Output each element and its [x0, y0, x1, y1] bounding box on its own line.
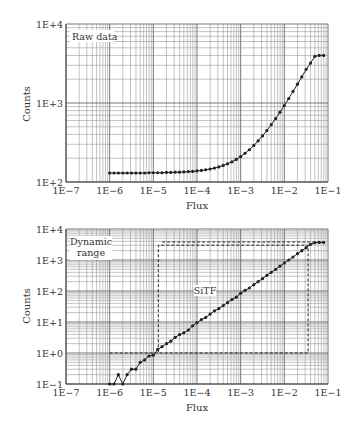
- data-line: [110, 55, 324, 173]
- data-point: [204, 168, 207, 171]
- data-point: [147, 354, 150, 357]
- data-point: [204, 316, 207, 319]
- data-point: [165, 342, 168, 345]
- x-tick-label: 1E−6: [96, 185, 123, 196]
- data-point: [296, 252, 299, 255]
- data-point: [305, 246, 308, 249]
- data-point: [287, 97, 290, 100]
- x-tick-label: 1E−2: [271, 387, 298, 398]
- data-point: [278, 265, 281, 268]
- data-point: [112, 382, 115, 385]
- data-point: [300, 75, 303, 78]
- x-tick-label: 1E−1: [315, 185, 342, 196]
- data-point: [126, 171, 129, 174]
- data-point: [169, 171, 172, 174]
- data-point: [283, 261, 286, 264]
- data-point: [248, 286, 251, 289]
- data-point: [152, 171, 155, 174]
- data-point: [156, 171, 159, 174]
- data-point: [191, 324, 194, 327]
- data-point: [130, 171, 133, 174]
- data-point: [213, 309, 216, 312]
- y-tick-label: 1E+4: [36, 19, 63, 30]
- chart-figure: 1E−71E−61E−51E−41E−31E−21E−11E+21E+31E+4…: [0, 0, 356, 435]
- data-point: [265, 129, 268, 132]
- data-point: [178, 171, 181, 174]
- data-point: [287, 258, 290, 261]
- x-tick-label: 1E−3: [227, 185, 254, 196]
- y-tick-label: 1E+1: [36, 317, 63, 328]
- data-point: [309, 61, 312, 64]
- data-point: [130, 368, 133, 371]
- data-point: [200, 169, 203, 172]
- data-point: [143, 358, 146, 361]
- data-point: [270, 271, 273, 274]
- data-point: [291, 255, 294, 258]
- data-point: [235, 296, 238, 299]
- data-point: [134, 171, 137, 174]
- x-tick-label: 1E−1: [315, 387, 342, 398]
- x-tick-label: 1E−3: [227, 387, 254, 398]
- data-point: [187, 328, 190, 331]
- x-tick-label: 1E−6: [96, 387, 123, 398]
- data-point: [239, 155, 242, 158]
- data-point: [200, 318, 203, 321]
- data-point: [230, 160, 233, 163]
- data-point: [143, 171, 146, 174]
- data-point: [257, 139, 260, 142]
- data-point: [134, 368, 137, 371]
- data-point: [278, 111, 281, 114]
- data-point: [296, 83, 299, 86]
- data-point: [261, 277, 264, 280]
- data-point: [222, 304, 225, 307]
- data-point: [195, 321, 198, 324]
- data-point: [252, 144, 255, 147]
- data-point: [265, 274, 268, 277]
- y-tick-label: 1E−1: [36, 379, 63, 390]
- y-tick-label: 1E+3: [36, 98, 63, 109]
- data-point: [235, 158, 238, 161]
- data-point: [283, 104, 286, 107]
- data-point: [209, 312, 212, 315]
- data-line: [110, 242, 324, 384]
- data-point: [300, 249, 303, 252]
- x-tick-label: 1E−4: [184, 185, 211, 196]
- data-point: [239, 292, 242, 295]
- data-point: [152, 354, 155, 357]
- data-point: [121, 171, 124, 174]
- data-point: [156, 348, 159, 351]
- y-tick-label: 1E+0: [36, 348, 63, 359]
- data-point: [252, 283, 255, 286]
- data-point: [257, 280, 260, 283]
- x-tick-label: 1E−4: [184, 387, 211, 398]
- data-point: [165, 171, 168, 174]
- data-point: [139, 171, 142, 174]
- data-point: [126, 373, 129, 376]
- data-point: [226, 162, 229, 165]
- data-point: [209, 167, 212, 170]
- data-point: [187, 170, 190, 173]
- data-point: [309, 243, 312, 246]
- data-point: [230, 298, 233, 301]
- x-tick-label: 1E−5: [140, 185, 167, 196]
- data-point: [108, 382, 111, 385]
- data-point: [261, 134, 264, 137]
- data-point: [139, 361, 142, 364]
- data-point: [318, 54, 321, 57]
- data-point: [243, 152, 246, 155]
- data-point: [274, 117, 277, 120]
- top-chart-raw-data: 1E−71E−61E−51E−41E−31E−21E−11E+21E+31E+4: [36, 19, 341, 197]
- data-point: [274, 268, 277, 271]
- bottom-chart-sitf: 1E−71E−61E−51E−41E−31E−21E−11E−11E+01E+1…: [36, 224, 341, 399]
- data-point: [182, 331, 185, 334]
- data-point: [195, 169, 198, 172]
- data-point: [213, 166, 216, 169]
- data-point: [217, 307, 220, 310]
- data-point: [108, 171, 111, 174]
- y-tick-label: 1E+2: [36, 177, 63, 188]
- data-point: [160, 171, 163, 174]
- data-point: [147, 171, 150, 174]
- x-tick-label: 1E−5: [140, 387, 167, 398]
- data-point: [243, 289, 246, 292]
- data-point: [222, 164, 225, 167]
